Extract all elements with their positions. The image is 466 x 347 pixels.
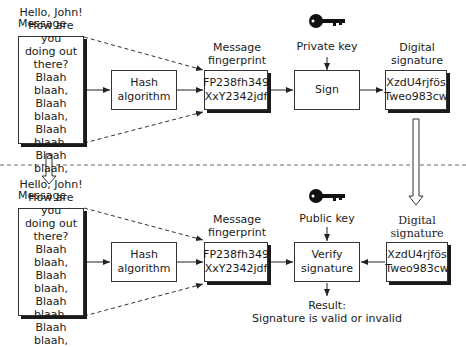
hash-label: Hash bbox=[130, 76, 158, 90]
message-line: Blaah blaah, bbox=[19, 123, 83, 149]
private-key-label: Private key bbox=[296, 40, 358, 53]
message-line: Blaah blaah, bbox=[19, 71, 83, 97]
fingerprint-label-line: Message bbox=[204, 213, 270, 226]
message-line: doing out bbox=[25, 45, 77, 58]
hash-label: algorithm bbox=[117, 90, 170, 104]
signature-value: XzdU4rjfös bbox=[387, 248, 446, 262]
top-fingerprint-box: FP238fh349 XxY2342jdf bbox=[204, 70, 268, 110]
bottom-message-box: Hello, John! How are you doing out there… bbox=[18, 208, 84, 316]
signature-label-line: Digital bbox=[384, 214, 450, 227]
result-title: Result: bbox=[246, 299, 408, 312]
message-line: Blaah blaah, bbox=[19, 149, 83, 175]
signature-value: Tweo983cw bbox=[385, 262, 448, 276]
signature-label-line: signature bbox=[384, 54, 450, 67]
message-line: Blaah blaah, bbox=[19, 321, 83, 347]
verify-label: signature bbox=[301, 262, 353, 276]
top-signature-box: XzdU4rjfös Tweo983cw bbox=[385, 70, 447, 110]
fingerprint-value: FP238fh349 bbox=[203, 76, 269, 90]
message-line: Hello, John! bbox=[19, 6, 82, 19]
fingerprint-value: FP238fh349 bbox=[203, 248, 269, 262]
signature-label-line: signature bbox=[384, 227, 450, 240]
fingerprint-value: XxY2342jdf bbox=[205, 90, 268, 104]
fingerprint-label-line: Message bbox=[204, 41, 270, 54]
hollow-arrow-signature-down bbox=[409, 119, 423, 205]
top-fingerprint-label: Message fingerprint bbox=[204, 41, 270, 67]
message-line: there? bbox=[34, 58, 69, 71]
verify-label: Verify bbox=[311, 248, 342, 262]
message-line: Blaah blaah, bbox=[19, 295, 83, 321]
signature-value: XzdU4rjfös bbox=[386, 76, 445, 90]
top-signature-label: Digital signature bbox=[384, 41, 450, 67]
message-line: doing out bbox=[25, 217, 77, 230]
fingerprint-label-line: fingerprint bbox=[204, 226, 270, 239]
message-line: Blaah blaah, bbox=[19, 243, 83, 269]
public-key-label: Public key bbox=[296, 212, 358, 225]
fingerprint-label-line: fingerprint bbox=[204, 54, 270, 67]
top-message-box: Hello, John! How are you doing out there… bbox=[18, 36, 84, 144]
hash-label: Hash bbox=[130, 248, 158, 262]
top-hash-algorithm-box: Hash algorithm bbox=[111, 70, 177, 110]
sign-box: Sign bbox=[294, 70, 360, 110]
message-line: Blaah blaah, bbox=[19, 269, 83, 295]
message-line: Hello, John! bbox=[19, 178, 82, 191]
signature-label-line: Digital bbox=[384, 41, 450, 54]
verification-result: Result: Signature is valid or invalid bbox=[246, 299, 408, 325]
result-text: Signature is valid or invalid bbox=[246, 312, 408, 325]
fingerprint-value: XxY2342jdf bbox=[205, 262, 268, 276]
bottom-fingerprint-box: FP238fh349 XxY2342jdf bbox=[204, 242, 268, 282]
hash-label: algorithm bbox=[117, 262, 170, 276]
public-key-icon bbox=[309, 189, 345, 203]
private-key-icon bbox=[309, 14, 345, 28]
message-line: Blaah blaah, bbox=[19, 97, 83, 123]
message-line: How are you bbox=[19, 191, 83, 217]
message-line: there? bbox=[34, 230, 69, 243]
bottom-signature-label: Digital signature bbox=[384, 214, 450, 240]
bottom-fingerprint-label: Message fingerprint bbox=[204, 213, 270, 239]
message-line: How are you bbox=[19, 19, 83, 45]
bottom-signature-box: XzdU4rjfös Tweo983cw bbox=[386, 242, 448, 282]
verify-signature-box: Verify signature bbox=[294, 242, 360, 282]
bottom-hash-algorithm-box: Hash algorithm bbox=[111, 242, 177, 282]
signature-value: Tweo983cw bbox=[384, 90, 447, 104]
